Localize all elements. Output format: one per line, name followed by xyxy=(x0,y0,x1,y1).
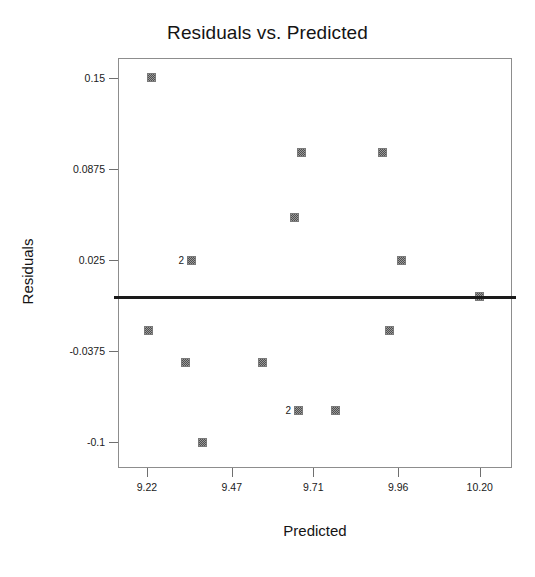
y-axis-tick-label: -0.0375 xyxy=(0,345,105,357)
data-point-marker xyxy=(258,358,267,367)
data-point-marker xyxy=(397,256,406,265)
chart-title: Residuals vs. Predicted xyxy=(0,22,535,44)
residuals-vs-predicted-chart: Residuals vs. Predicted Residuals Predic… xyxy=(0,0,535,577)
data-point-marker xyxy=(290,213,299,222)
y-axis-tick-label: 0.0875 xyxy=(0,163,105,175)
x-axis-tick-label: 9.47 xyxy=(192,481,272,493)
y-axis-tick-mark xyxy=(109,78,118,79)
data-point-marker xyxy=(198,438,207,447)
x-axis-tick-label: 10.20 xyxy=(440,481,520,493)
y-axis-tick-mark xyxy=(109,351,118,352)
x-axis-tick-mark xyxy=(232,468,233,477)
data-point-marker xyxy=(147,73,156,82)
data-point-marker xyxy=(187,256,196,265)
data-point-marker xyxy=(181,358,190,367)
y-axis-tick-mark xyxy=(109,260,118,261)
x-axis-tick-label: 9.71 xyxy=(273,481,353,493)
data-point-marker xyxy=(331,406,340,415)
x-axis-tick-mark xyxy=(480,468,481,477)
data-point-marker xyxy=(144,326,153,335)
x-axis-tick-label: 9.96 xyxy=(358,481,438,493)
data-point-marker xyxy=(385,326,394,335)
data-point-marker xyxy=(294,406,303,415)
x-axis-tick-mark xyxy=(313,468,314,477)
x-axis-tick-mark xyxy=(147,468,148,477)
x-axis-tick-label: 9.22 xyxy=(107,481,187,493)
plot-area: 22 xyxy=(118,58,512,468)
y-axis-label: Residuals xyxy=(19,182,36,362)
data-point-count-label: 2 xyxy=(285,405,293,416)
y-axis-tick-mark xyxy=(109,442,118,443)
data-point-marker xyxy=(297,148,306,157)
x-axis-label: Predicted xyxy=(118,522,512,539)
zero-reference-line xyxy=(114,296,516,299)
y-axis-tick-label: 0.025 xyxy=(0,254,105,266)
data-point-count-label: 2 xyxy=(178,255,186,266)
x-axis-tick-mark xyxy=(398,468,399,477)
data-point-marker xyxy=(378,148,387,157)
y-axis-tick-label: -0.1 xyxy=(0,436,105,448)
y-axis-tick-label: 0.15 xyxy=(0,72,105,84)
y-axis-tick-mark xyxy=(109,169,118,170)
